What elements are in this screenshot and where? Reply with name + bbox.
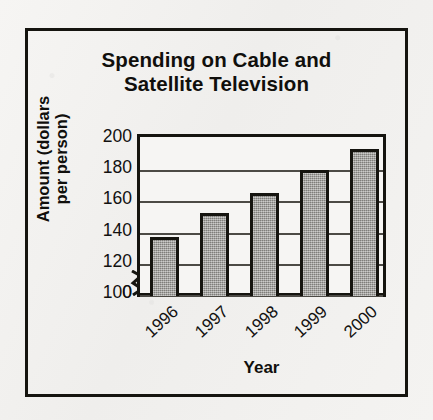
plot-area (137, 134, 386, 297)
y-tick-label-100: 100 (84, 284, 132, 302)
chart-page: Spending on Cable and Satellite Televisi… (0, 0, 433, 420)
y-axis-title-line-2: per person) (52, 69, 70, 249)
y-tick-label-140: 140 (84, 222, 132, 240)
y-axis-tick-labels: 0100120140160180200 (80, 0, 132, 420)
y-tick-label-200: 200 (84, 128, 132, 146)
bar-1999[interactable] (300, 170, 329, 296)
y-axis-title-line-1: Amount (dollars (34, 69, 52, 249)
y-tick-label-120: 120 (84, 253, 132, 271)
bars-group (140, 137, 383, 293)
y-tick-label-180: 180 (84, 159, 132, 177)
bar-1996[interactable] (150, 237, 179, 296)
y-tick-label-160: 160 (84, 190, 132, 208)
y-axis-title: Amount (dollars per person) (34, 69, 80, 249)
x-axis-tick-labels: 19961997199819992000 (137, 312, 386, 356)
x-axis-title: Year (137, 358, 386, 378)
bar-2000[interactable] (350, 149, 379, 296)
bar-1997[interactable] (200, 213, 229, 296)
bar-1998[interactable] (250, 193, 279, 296)
